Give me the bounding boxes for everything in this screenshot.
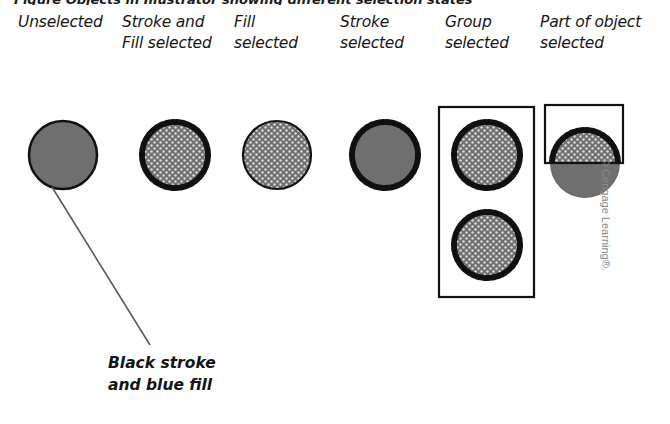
artwork-layer bbox=[0, 0, 670, 424]
figure-canvas: Figure Objects in Illustrator showing di… bbox=[0, 0, 670, 424]
shape-group-group-selected[interactable] bbox=[439, 107, 534, 297]
leader-line-black-stroke-blue-fill bbox=[52, 187, 150, 345]
shape-group-fill-selected[interactable] bbox=[243, 121, 311, 189]
shape-group-stroke-selected[interactable] bbox=[352, 122, 418, 188]
copyright-credit: © Cengage Learning®. bbox=[600, 158, 612, 288]
shape-group-unselected[interactable] bbox=[29, 121, 150, 345]
callout-black-stroke-and-blue-fill: Black stroke and blue fill bbox=[108, 352, 216, 396]
circle-fill-selected[interactable] bbox=[243, 121, 311, 189]
shape-group-stroke-and-fill-selected[interactable] bbox=[142, 122, 208, 188]
circle-unselected[interactable] bbox=[29, 121, 97, 189]
